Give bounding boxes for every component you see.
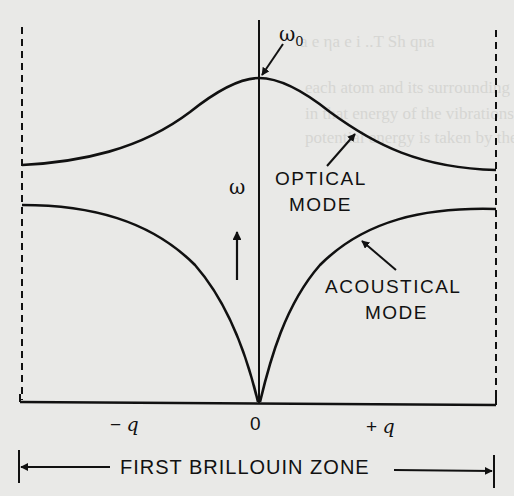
acoustical-arrow bbox=[362, 241, 396, 270]
brillouin-zone-label: FIRST BRILLOUIN ZONE bbox=[120, 456, 370, 479]
tick-positive-q: + q bbox=[366, 415, 395, 438]
omega0-label: ω0 bbox=[279, 22, 304, 49]
acoustical-mode-curve bbox=[22, 205, 258, 402]
plus-sign: + bbox=[366, 416, 377, 437]
acoustical-label-line1: ACOUSTICAL bbox=[325, 276, 461, 298]
q-symbol: q bbox=[126, 413, 138, 435]
acoustical-label-line2: MODE bbox=[365, 302, 428, 324]
minus-sign: − bbox=[110, 414, 121, 435]
omega-symbol: ω bbox=[279, 22, 295, 46]
optical-arrow bbox=[327, 134, 355, 166]
tick-negative-q: − q bbox=[110, 413, 139, 436]
zone-right-arrow bbox=[394, 470, 492, 471]
optical-label-line1: OPTICAL bbox=[275, 168, 367, 190]
tick-zero: 0 bbox=[250, 413, 261, 435]
omega-axis-label: ω bbox=[229, 175, 245, 199]
subscript-zero: 0 bbox=[295, 34, 303, 49]
optical-label-line2: MODE bbox=[289, 194, 352, 216]
q-symbol: q bbox=[382, 415, 394, 437]
